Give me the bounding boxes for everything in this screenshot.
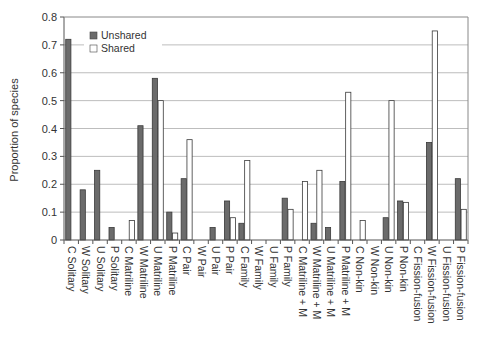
x-tick-label: W Pair [196,246,208,278]
bars [66,31,467,240]
bar-unshared [455,179,460,240]
x-tick-label: C Solitary [66,246,78,292]
bar-shared [403,202,408,240]
bar-shared [173,233,178,240]
y-tick-label: 0.5 [42,95,57,107]
bar-shared [389,101,394,240]
bar-shared [245,161,250,240]
y-tick-label: 0.6 [42,67,57,79]
bar-shared [360,220,365,240]
bar-shared [432,31,437,240]
x-tick-label: P Matriline [167,246,179,296]
bar-shared [230,218,235,240]
bar-shared [187,140,192,240]
bar-chart: 00.10.20.30.40.50.60.70.8 C SolitaryW So… [0,0,479,347]
bar-shared [158,101,163,240]
y-tick-label: 0.7 [42,39,57,51]
bar-shared [288,209,293,240]
x-tick-label: U Fission-fusion [441,246,453,321]
bar-unshared [340,181,345,240]
bar-unshared [138,126,143,240]
x-tick-label: U Family [268,246,280,288]
x-tick-label: P Matriline + M [340,246,352,316]
bar-unshared [167,212,172,240]
bar-unshared [311,223,316,240]
x-tick-label: U Pair [210,246,222,276]
x-tick-label: C Matriline + M [297,246,309,317]
x-tick-label: C Fission-fusion [412,246,424,321]
x-tick-label: P Fission-fusion [455,246,467,321]
y-tick-label: 0 [51,234,57,246]
x-tick-label: W Fission-fusion [426,246,438,324]
y-tick-label: 0.2 [42,178,57,190]
bar-unshared [181,179,186,240]
x-tick-label: P Solitary [109,246,121,291]
x-tick-label: W Matriline [138,246,150,299]
y-tick-label: 0.3 [42,150,57,162]
x-tick-label: C Pair [181,246,193,276]
bar-shared [129,220,134,240]
y-tick-labels: 00.10.20.30.40.50.60.70.8 [42,11,57,246]
bar-shared [317,170,322,240]
bar-shared [346,92,351,240]
x-tick-label: W Solitary [80,246,92,295]
x-tick-label: U Matriline [152,246,164,296]
y-tick-label: 0.1 [42,206,57,218]
x-tick-label: U Non-kin [383,246,395,293]
bar-shared [461,209,466,240]
y-tick-label: 0.8 [42,11,57,23]
bar-unshared [109,227,114,240]
x-tick-label: U Solitary [95,246,107,292]
bar-shared [302,181,307,240]
x-tick-label: U Matriline + M [325,246,337,317]
x-tick-label: W Non-kin [369,246,381,295]
bar-unshared [210,227,215,240]
x-tick-label: C Family [239,246,251,288]
y-axis-label: Proportion of species [8,78,20,182]
y-tick-label: 0.4 [42,123,57,135]
bar-unshared [224,201,229,240]
legend-label-unshared: Unshared [101,29,147,41]
x-tick-label: P Non-kin [398,246,410,292]
legend-swatch-unshared [90,32,97,39]
x-tick-label: W Family [253,246,265,290]
x-tick-label: C Matriline [123,246,135,296]
x-tick-labels: C SolitaryW SolitaryU SolitaryP Solitary… [66,246,468,324]
legend-swatch-shared [90,45,97,52]
bar-unshared [398,201,403,240]
legend: Unshared Shared [84,28,162,58]
bar-unshared [282,198,287,240]
bar-unshared [80,190,85,240]
bar-unshared [95,170,100,240]
x-tick-label: W Matriline + M [311,246,323,319]
x-tick-label: P Pair [224,246,236,275]
bar-unshared [152,78,157,240]
legend-label-shared: Shared [101,42,135,54]
x-tick-label: C Non-kin [354,246,366,293]
bar-unshared [426,142,431,240]
bar-unshared [325,227,330,240]
x-tick-label: P Family [282,246,294,287]
bar-unshared [239,223,244,240]
bar-unshared [383,218,388,240]
bar-unshared [66,39,71,240]
